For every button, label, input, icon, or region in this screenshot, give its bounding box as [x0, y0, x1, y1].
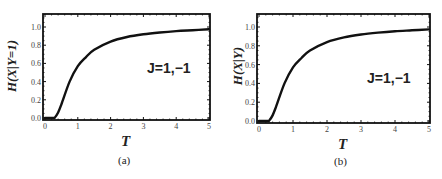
annotation-a: J=1,−1: [147, 60, 191, 76]
svg-text:0.6: 0.6: [245, 61, 255, 70]
svg-text:0.2: 0.2: [245, 98, 255, 107]
svg-text:1.0: 1.0: [245, 23, 255, 32]
svg-text:5: 5: [207, 122, 211, 131]
svg-text:0.2: 0.2: [31, 96, 41, 105]
caption-a: (a): [118, 154, 130, 166]
y-axis-label-a: H(X|Y=1): [4, 26, 20, 106]
svg-text:3: 3: [359, 125, 363, 134]
y-axis-label-b: H(X|Y): [230, 26, 246, 106]
x-axis-label-a: T: [121, 133, 130, 150]
annotation-b: J=1,−1: [367, 70, 411, 86]
svg-text:0: 0: [257, 125, 261, 134]
svg-text:3: 3: [141, 122, 145, 131]
svg-text:2: 2: [109, 122, 113, 131]
x-axis-label-b: T: [338, 136, 347, 153]
svg-text:0.0: 0.0: [245, 117, 255, 126]
svg-text:2: 2: [325, 125, 329, 134]
panel-b: 0123450.00.20.40.60.81.0 H(X|Y) T (b) J=…: [221, 0, 442, 179]
svg-text:1.0: 1.0: [31, 23, 41, 32]
svg-text:5: 5: [427, 125, 431, 134]
svg-text:0: 0: [43, 122, 47, 131]
svg-text:1: 1: [76, 122, 80, 131]
svg-text:4: 4: [393, 125, 397, 134]
svg-text:0.4: 0.4: [245, 79, 255, 88]
svg-text:4: 4: [174, 122, 178, 131]
svg-text:0.4: 0.4: [31, 78, 41, 87]
svg-text:0.0: 0.0: [31, 114, 41, 123]
plot-b: 0123450.00.20.40.60.81.0: [221, 0, 442, 179]
caption-b: (b): [334, 155, 347, 167]
svg-text:0.6: 0.6: [31, 59, 41, 68]
plot-a: 0123450.00.20.40.60.81.0: [0, 0, 221, 179]
svg-text:0.8: 0.8: [31, 41, 41, 50]
svg-text:0.8: 0.8: [245, 42, 255, 51]
panel-a: 0123450.00.20.40.60.81.0 H(X|Y=1) T (a) …: [0, 0, 221, 179]
svg-text:1: 1: [291, 125, 295, 134]
